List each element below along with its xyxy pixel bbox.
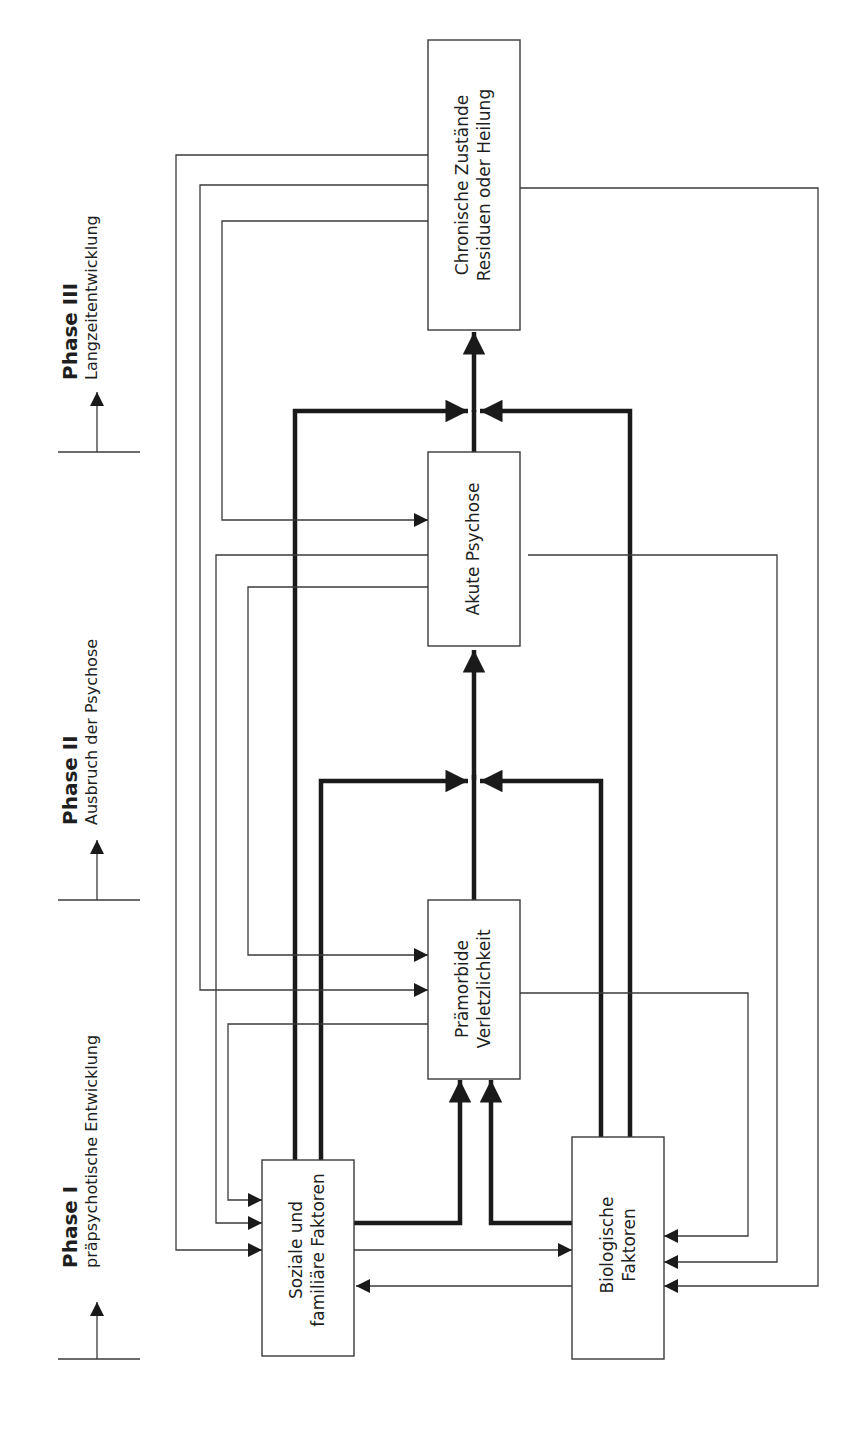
phase-2-title: Phase II	[58, 639, 82, 825]
phase-1-label: Phase I präpsychotische Entwicklung	[58, 1035, 101, 1268]
soziale-faktoren-label: Soziale und familiäre Faktoren	[285, 1160, 329, 1340]
akute-line-1: Akute Psychose	[462, 452, 484, 646]
chronische-line-2: Residuen oder Heilung	[473, 40, 495, 330]
phase-1-title: Phase I	[58, 1035, 82, 1268]
praemorbide-label: Prämorbide Verletzlichkeit	[451, 899, 495, 1079]
phase-1-subtitle: präpsychotische Entwicklung	[82, 1035, 101, 1268]
biologische-faktoren-label: Biologische Faktoren	[596, 1145, 640, 1345]
biologische-line-2: Faktoren	[618, 1145, 640, 1345]
phase-3-label: Phase III Langzeitentwicklung	[58, 215, 101, 380]
soziale-line-2: familiäre Faktoren	[307, 1160, 329, 1340]
biologische-line-1: Biologische	[596, 1145, 618, 1345]
diagram-canvas	[0, 0, 853, 1444]
phase-3-title: Phase III	[58, 215, 82, 380]
praemorbide-line-1: Prämorbide	[451, 899, 473, 1079]
phase-2-label: Phase II Ausbruch der Psychose	[58, 639, 101, 825]
phase-marker-2	[58, 840, 140, 900]
chronische-line-1: Chronische Zustände	[451, 40, 473, 330]
soziale-line-1: Soziale und	[285, 1160, 307, 1340]
akute-psychose-label: Akute Psychose	[462, 452, 484, 646]
phase-marker-1	[58, 1302, 140, 1359]
phase-2-subtitle: Ausbruch der Psychose	[82, 639, 101, 825]
chronische-label: Chronische Zustände Residuen oder Heilun…	[451, 40, 495, 330]
praemorbide-line-2: Verletzlichkeit	[473, 899, 495, 1079]
phase-3-subtitle: Langzeitentwicklung	[82, 215, 101, 380]
phase-marker-3	[58, 392, 140, 452]
